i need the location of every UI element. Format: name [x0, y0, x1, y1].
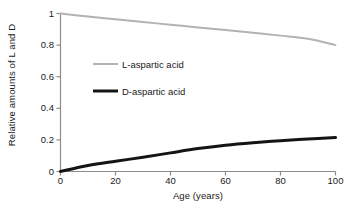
legend-swatch-group	[93, 64, 118, 91]
series-line-d-aspartic-acid	[61, 138, 336, 172]
legend-label-d-aspartic-acid: D-aspartic acid	[122, 86, 185, 97]
chart-figure: Relative amounts of L and D 00.20.40.60.…	[0, 0, 361, 214]
legend-label-l-aspartic-acid: L-aspartic acid	[122, 59, 184, 70]
series-line-l-aspartic-acid	[61, 14, 336, 46]
plot-area	[0, 0, 361, 214]
